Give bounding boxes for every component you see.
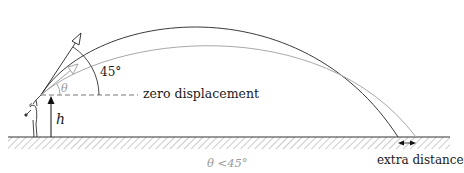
theta-label: θ (61, 83, 68, 94)
trajectory-45 (41, 27, 398, 137)
thrower-figure (25, 95, 41, 137)
zero-displacement-label: zero displacement (143, 88, 259, 101)
theta-condition-label: θ <45° (207, 158, 248, 170)
ground (8, 137, 450, 149)
height-arrow (48, 96, 55, 137)
height-label: h (56, 112, 65, 126)
angle-arc-theta (57, 84, 60, 95)
extra-distance-label: extra distance (377, 154, 464, 166)
angle-45-label: 45° (100, 66, 121, 78)
